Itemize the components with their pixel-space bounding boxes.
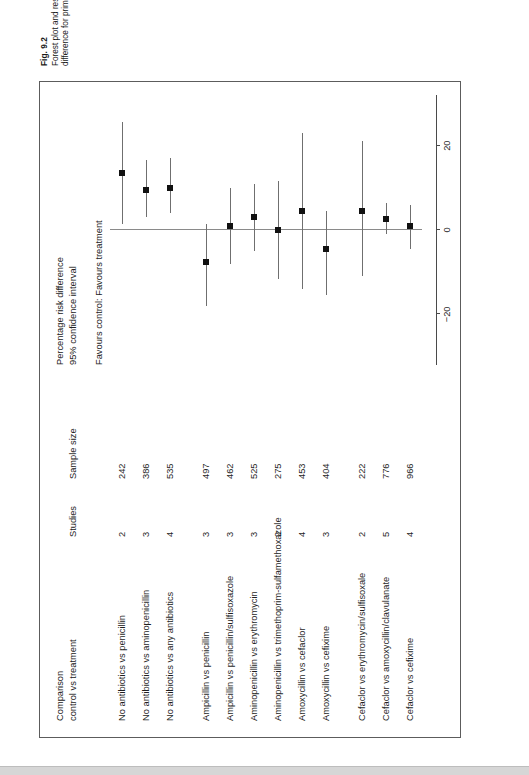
row-comparison-label: Aminopenicillin vs erythromycin [242,591,266,721]
row-comparison-label: Cefaclor vs cefixime [398,637,422,720]
row-studies-count: 4 [290,507,314,537]
row-studies-count: 2 [266,507,290,537]
forest-plot-box: Comparison control vs treatment Studies … [39,81,461,738]
row-comparison-label: Ampicillin vs penicillin/sulfisoxazole [218,575,242,720]
row-studies-count: 3 [134,507,158,537]
x-axis: −20020 [436,95,462,365]
point-estimate-marker [203,258,209,264]
row-comparison-label: Amoxycillin vs cefaclor [290,627,314,721]
row-sample-size: 386 [134,445,158,479]
favours-label: Favours control: Favours treatment [93,220,106,365]
row-studies-count: 3 [218,507,242,537]
row-sample-size: 222 [350,445,374,479]
row-comparison-label: Cefaclor vs erythromycin/sulfisoxale [350,572,374,720]
figure-caption: Fig. 9.2 Forest plot and results from Ro… [39,0,72,66]
row-sample-size: 776 [374,445,398,479]
row-sample-size: 404 [314,445,338,479]
point-estimate-marker [227,222,233,228]
axis-tick-label: −20 [442,306,452,322]
point-estimate-marker [299,208,305,214]
row-comparison-label: Amoxycillin vs cefixime [314,625,338,720]
axis-tick [436,229,440,230]
column-header-comparison-line2: control vs treatment [66,639,79,721]
axis-tick-label: 20 [442,140,452,150]
row-comparison-label: No antibiotics vs aminopenicillin [134,589,158,720]
point-estimate-marker [143,186,149,192]
axis-title: Percentage risk difference 95% confidenc… [54,257,79,365]
plot-area [110,95,422,365]
row-studies-count: 5 [374,507,398,537]
axis-title-line2: 95% confidence interval [66,257,79,365]
rotated-figure-wrapper: Comparison control vs treatment Studies … [39,38,491,738]
row-studies-count: 3 [194,507,218,537]
axis-tick-label: 0 [442,227,452,232]
point-estimate-marker [275,227,281,233]
point-estimate-marker [323,245,329,251]
point-estimate-marker [383,216,389,222]
row-studies-count: 2 [110,507,134,537]
point-estimate-marker [407,222,413,228]
row-studies-count: 4 [158,507,182,537]
row-studies-count: 2 [350,507,374,537]
row-comparison-label: No antibiotics vs any antibiotics [158,591,182,720]
column-header-comparison: Comparison control vs treatment [54,639,79,721]
row-sample-size: 535 [158,445,182,479]
confidence-interval-line [326,211,327,295]
figure-number: Fig. 9.2 [39,0,50,66]
row-comparison-label: Aminopenicillin vs trimethoprim-sulfamet… [266,517,290,721]
row-sample-size: 966 [398,445,422,479]
axis-tick [436,144,440,145]
row-sample-size: 453 [290,445,314,479]
row-sample-size: 525 [242,445,266,479]
axis-title-line1: Percentage risk difference [54,257,67,365]
row-studies-count: 4 [398,507,422,537]
column-header-sample-size: Sample size [67,428,80,479]
point-estimate-marker [119,170,125,176]
axis-tick [436,313,440,314]
row-sample-size: 497 [194,445,218,479]
row-studies-count: 3 [242,507,266,537]
page-bottom-edge [0,767,529,775]
zero-reference-line [110,229,422,230]
row-sample-size: 275 [266,445,290,479]
row-comparison-label: No antibiotics vs penicillin [110,615,134,721]
row-sample-size: 462 [218,445,242,479]
row-comparison-label: Cefaclor vs amoxycillin/clavulanate [374,576,398,720]
figure-caption-text: Forest plot and results from Rosenfeld's… [50,0,70,66]
point-estimate-marker [251,214,257,220]
row-comparison-label: Ampicillin vs penicillin [194,631,218,720]
point-estimate-marker [359,208,365,214]
column-header-studies: Studies [67,505,80,536]
row-sample-size: 242 [110,445,134,479]
point-estimate-marker [167,184,173,190]
figure-page: Comparison control vs treatment Studies … [0,0,529,775]
row-studies-count: 3 [314,507,338,537]
column-header-comparison-line1: Comparison [54,639,67,721]
